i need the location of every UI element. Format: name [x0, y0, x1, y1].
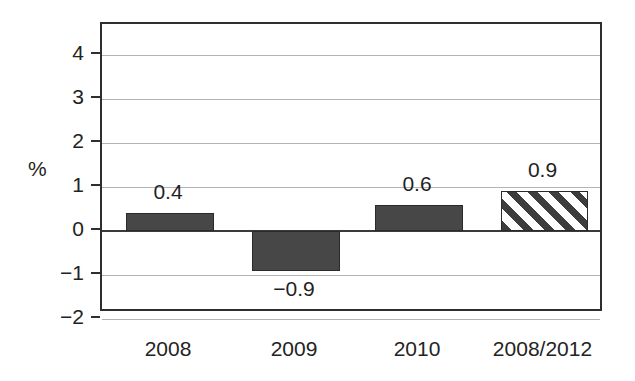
bar-2010 — [375, 205, 463, 231]
bar-value-label: −0.9 — [250, 278, 338, 299]
bar-2008 — [126, 213, 214, 231]
y-axis-tick-label: −1 — [38, 262, 84, 283]
gridline — [102, 275, 600, 276]
y-axis-tick-label: 1 — [38, 174, 84, 195]
y-axis-tick-mark — [91, 316, 100, 318]
gridline — [102, 143, 600, 144]
y-axis-tick-mark — [91, 272, 100, 274]
bar-2008-2012 — [501, 191, 588, 231]
bar-value-label: 0.6 — [373, 173, 461, 194]
y-axis-tick-label: 2 — [38, 130, 84, 151]
bar-2009 — [252, 231, 340, 271]
bar-value-label: 0.9 — [499, 159, 586, 180]
bar-chart: % 43210−1−2 0.42008−0.920090.620100.9200… — [0, 0, 635, 381]
gridline — [102, 99, 600, 100]
y-axis-tick-mark — [91, 184, 100, 186]
y-axis-tick-label: 0 — [38, 218, 84, 239]
y-axis-tick-label: 3 — [38, 86, 84, 107]
y-axis-tick-mark — [91, 140, 100, 142]
y-axis-tick-label: 4 — [38, 42, 84, 63]
y-axis-tick-mark — [91, 52, 100, 54]
gridline — [102, 55, 600, 56]
bar-value-label: 0.4 — [124, 181, 212, 202]
gridline — [102, 319, 600, 320]
y-axis-tick-mark — [91, 96, 100, 98]
y-axis-tick-mark — [91, 228, 100, 230]
y-axis-tick-label: −2 — [38, 306, 84, 327]
x-axis-category-label: 2008/2012 — [469, 338, 616, 359]
